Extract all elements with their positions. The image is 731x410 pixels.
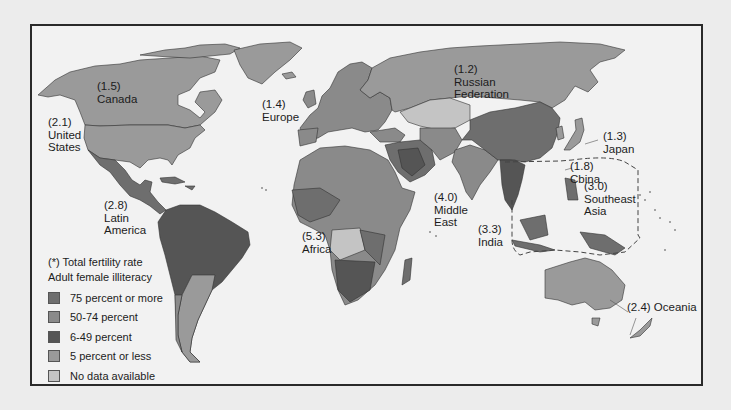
legend-swatch [48, 350, 60, 362]
legend-item: 75 percent or more [48, 288, 163, 308]
legend-item: 5 percent or less [48, 347, 163, 367]
legend-title: Adult female illiteracy [48, 270, 163, 285]
legend-item: 50-74 percent [48, 308, 163, 328]
legend-item: 6-49 percent [48, 327, 163, 347]
label-middle-east: (4.0)Middle East [434, 191, 468, 229]
label-africa: (5.3)Africa [302, 230, 331, 255]
label-latin-america: (2.8)Latin America [104, 199, 146, 237]
legend-swatch [48, 370, 60, 382]
label-southeast-asia: (3.0)Southeast Asia [584, 180, 636, 218]
legend-item: No data available [48, 366, 163, 386]
legend: (*) Total fertility rate Adult female il… [48, 255, 163, 386]
label-canada: (1.5)Canada [97, 80, 137, 105]
label-russian-federation: (1.2)Russian Federation [454, 63, 509, 101]
region-japan [564, 118, 584, 150]
label-united-states: (2.1)United States [48, 116, 81, 154]
legend-swatch [48, 331, 60, 343]
legend-note: (*) Total fertility rate [48, 255, 163, 270]
label-oceania: (2.4) Oceania [627, 301, 697, 314]
label-europe: (1.4)Europe [262, 98, 299, 123]
region-new-zealand [630, 318, 652, 338]
label-japan: (1.3)Japan [603, 130, 634, 155]
legend-swatch [48, 292, 60, 304]
legend-swatch [48, 311, 60, 323]
label-india: (3.3)India [478, 223, 503, 248]
